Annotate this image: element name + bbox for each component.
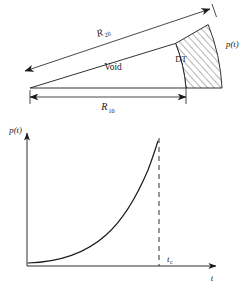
figure-container: Void DT p(t) R20 R10 <box>0 0 247 293</box>
r20-label: R20 <box>94 24 112 40</box>
pressure-curve <box>28 141 158 263</box>
r20-extension-tick <box>212 4 217 17</box>
r20-subscript: 20 <box>103 30 111 39</box>
r10-symbol: R <box>100 101 107 112</box>
x-axis-label: t <box>211 273 214 283</box>
y-axis-label: p(t) <box>8 125 22 135</box>
critical-time-label: tc <box>167 254 173 265</box>
r10-subscript: 10 <box>108 107 114 114</box>
r20-label-group: R20 <box>94 24 112 40</box>
r10-label: R10 <box>100 101 114 114</box>
pressure-vs-time-plot: p(t) t tc <box>8 125 216 283</box>
void-label: Void <box>104 62 122 72</box>
r20-symbol: R <box>94 27 104 40</box>
dt-label: DT <box>175 54 187 64</box>
figure-svg: Void DT p(t) R20 R10 <box>0 0 247 293</box>
critical-time-subscript: c <box>170 258 173 265</box>
pressure-label-diagram: p(t) <box>225 39 239 49</box>
wedge-cross-section: Void DT p(t) R20 R10 <box>25 4 239 114</box>
